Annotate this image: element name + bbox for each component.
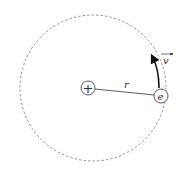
velocity-label: v <box>163 55 169 66</box>
electron: e <box>154 89 168 103</box>
bohr-diagram: + e r v <box>0 0 187 173</box>
electron-symbol: e <box>158 91 164 102</box>
motion-arrow <box>153 58 159 88</box>
velocity-vector: v <box>161 54 173 66</box>
nucleus-symbol: + <box>83 81 94 96</box>
nucleus: + <box>81 81 95 96</box>
radius-label: r <box>124 79 130 90</box>
